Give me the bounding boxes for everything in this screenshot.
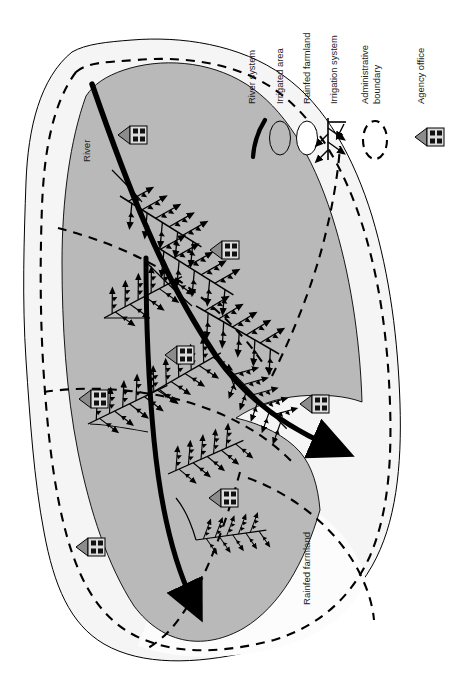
legend-label-administrative-boundary-line1: Administrative [359, 45, 370, 104]
legend-label-agency-office: Agency office [415, 48, 426, 104]
irrigation-scheme-figure: River Rainfed farmland River system Irri… [0, 0, 460, 677]
map-label-rainfed-farmland: Rainfed farmland [301, 532, 312, 605]
legend-label-administrative-boundary-line2: boundary [371, 65, 382, 104]
white-ellipse-icon [297, 121, 318, 155]
legend-label-river-system: River system [246, 50, 257, 104]
legend-label-rainfed-farmland: Rainfed farmland [301, 33, 312, 104]
gray-ellipse-icon [270, 121, 291, 155]
legend-label-irrigation-system: Irrigation system [328, 35, 339, 104]
map-label-river: River [81, 139, 92, 162]
legend-label-irrigated-area: Irrigated area [274, 47, 285, 104]
figure-svg: River Rainfed farmland River system Irri… [0, 0, 460, 677]
